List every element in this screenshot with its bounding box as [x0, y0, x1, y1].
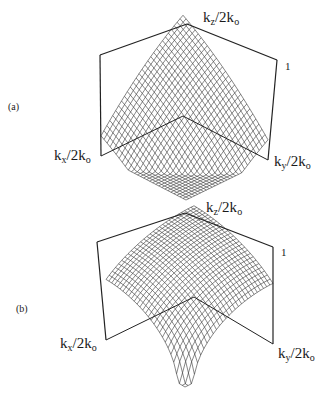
- figure-canvas: [0, 0, 334, 396]
- axis-label-ky-a: ky/2ko: [274, 154, 311, 171]
- axis-label-ky-b: ky/2ko: [278, 346, 315, 363]
- axis-label-kz-b: kz/2ko: [206, 200, 242, 217]
- z-tick-1-a: 1: [285, 60, 291, 72]
- panel-label-a: (a): [8, 101, 19, 112]
- axis-label-kx-a: kx/2ko: [54, 148, 91, 165]
- z-tick-1-b: 1: [281, 246, 287, 258]
- panel-label-b: (b): [16, 303, 28, 314]
- axis-label-kz-a: kz/2ko: [203, 10, 239, 27]
- axis-label-kx-b: kx/2ko: [60, 336, 97, 353]
